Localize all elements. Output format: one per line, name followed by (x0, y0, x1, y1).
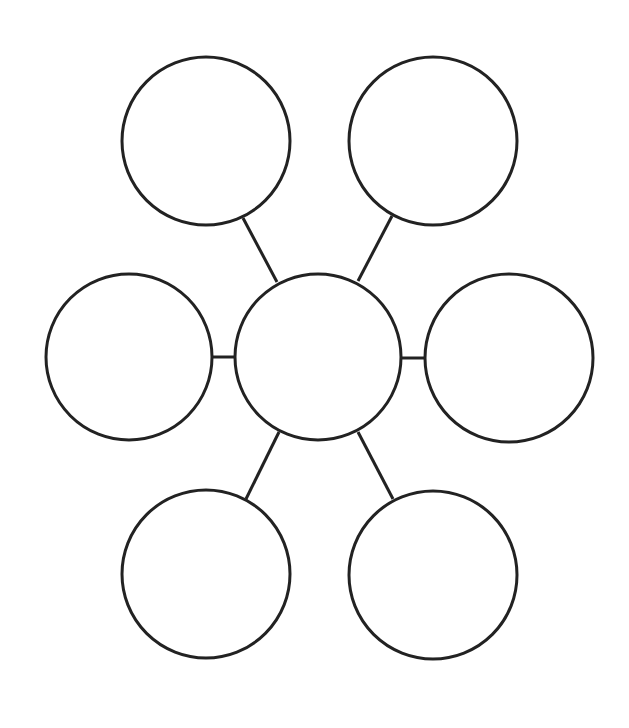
node-top-right-circle[interactable] (349, 57, 517, 225)
node-top-left-circle[interactable] (122, 57, 290, 225)
nodes-group (46, 57, 593, 659)
node-center-circle[interactable] (235, 274, 401, 440)
node-bottom-right[interactable] (349, 491, 517, 659)
node-left[interactable] (46, 274, 212, 440)
connector-bottom-left (246, 432, 279, 499)
node-bottom-left[interactable] (122, 490, 290, 658)
node-right[interactable] (425, 274, 593, 442)
node-bottom-left-circle[interactable] (122, 490, 290, 658)
diagram-svg (0, 0, 629, 728)
connector-top-right (358, 216, 392, 281)
node-right-circle[interactable] (425, 274, 593, 442)
node-top-left[interactable] (122, 57, 290, 225)
connector-bottom-right (358, 432, 393, 499)
bubble-map-diagram (0, 0, 629, 728)
node-top-right[interactable] (349, 57, 517, 225)
connector-top-left (243, 218, 277, 282)
node-left-circle[interactable] (46, 274, 212, 440)
node-bottom-right-circle[interactable] (349, 491, 517, 659)
node-center[interactable] (235, 274, 401, 440)
